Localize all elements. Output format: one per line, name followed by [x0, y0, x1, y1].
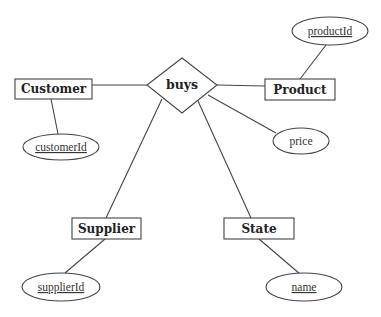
- entity-label: Product: [273, 83, 327, 97]
- entity-state[interactable]: State: [224, 218, 294, 239]
- line-buys-state: [198, 101, 251, 218]
- line-buys-product: [217, 85, 265, 86]
- attribute-supplierid[interactable]: supplierId: [22, 273, 100, 301]
- attribute-productid[interactable]: productId: [292, 17, 368, 45]
- line-buys-price: [208, 95, 276, 133]
- entity-label: State: [241, 222, 277, 236]
- relationship-label: buys: [166, 77, 198, 92]
- attribute-label: supplierId: [38, 281, 85, 294]
- line-buys-supplier: [106, 99, 162, 218]
- attribute-label: price: [290, 135, 313, 148]
- attribute-label: productId: [308, 25, 353, 38]
- attribute-label: name: [292, 281, 317, 293]
- entity-label: Supplier: [78, 222, 136, 236]
- entity-label: Customer: [21, 82, 87, 96]
- entity-product[interactable]: Product: [265, 79, 335, 100]
- relationship-buys[interactable]: buys: [147, 58, 217, 113]
- er-diagram: buys Customer Product Supplier State cus…: [0, 0, 381, 317]
- attribute-price[interactable]: price: [273, 128, 329, 154]
- entity-supplier[interactable]: Supplier: [72, 218, 141, 239]
- entity-customer[interactable]: Customer: [15, 79, 92, 99]
- attribute-label: customerId: [35, 141, 87, 153]
- line-product-productid: [300, 45, 326, 79]
- line-supplier-supplierid: [65, 239, 105, 273]
- line-state-name: [259, 239, 300, 274]
- attribute-customerid[interactable]: customerId: [23, 134, 99, 160]
- attribute-name[interactable]: name: [266, 273, 342, 301]
- line-customer-customerid: [51, 99, 58, 134]
